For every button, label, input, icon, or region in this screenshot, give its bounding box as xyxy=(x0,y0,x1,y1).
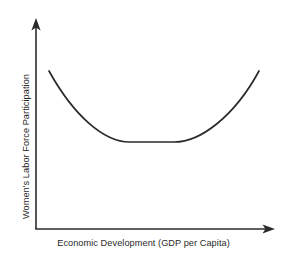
x-axis-label: Economic Development (GDP per Capita) xyxy=(0,238,287,248)
y-axis-label: Women's Labor Force Participation xyxy=(21,0,31,219)
chart-plot-area xyxy=(0,0,287,259)
u-shaped-curve xyxy=(49,71,259,142)
chart-figure: Economic Development (GDP per Capita) Wo… xyxy=(0,0,287,259)
